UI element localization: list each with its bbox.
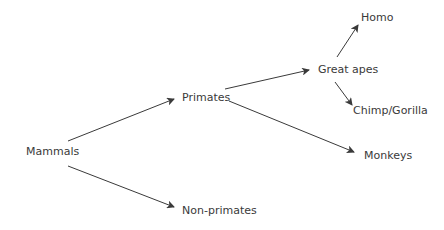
edge-mammals-non-primates	[68, 166, 174, 207]
edge-great-apes-chimp-gorilla	[335, 82, 352, 105]
node-great-apes: Great apes	[318, 63, 378, 77]
edge-primates-monkeys	[229, 101, 354, 152]
node-mammals: Mammals	[26, 145, 79, 159]
node-monkeys: Monkeys	[364, 149, 412, 163]
node-primates: Primates	[182, 91, 230, 105]
edge-primates-great-apes	[225, 70, 309, 89]
node-homo: Homo	[361, 11, 393, 25]
edge-mammals-primates	[68, 99, 174, 141]
edge-great-apes-homo	[337, 25, 358, 57]
node-chimp-gorilla: Chimp/Gorilla	[353, 104, 428, 118]
node-non-primates: Non-primates	[182, 204, 257, 218]
